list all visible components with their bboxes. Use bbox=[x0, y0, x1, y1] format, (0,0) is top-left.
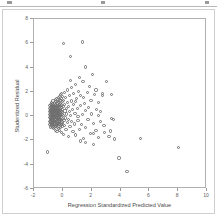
data-point bbox=[94, 88, 97, 91]
x-tick-label: 4 bbox=[118, 192, 121, 198]
data-point bbox=[82, 137, 85, 140]
y-tick-label: -4 bbox=[19, 161, 28, 167]
data-point bbox=[117, 156, 120, 159]
x-tick-mark bbox=[33, 188, 34, 191]
data-point bbox=[109, 129, 112, 132]
data-point bbox=[125, 170, 128, 173]
y-tick-label: 8 bbox=[19, 15, 28, 21]
data-point bbox=[89, 99, 92, 102]
data-point bbox=[84, 126, 87, 129]
x-tick-mark bbox=[206, 188, 207, 191]
y-tick-mark bbox=[30, 188, 33, 189]
data-point bbox=[87, 106, 90, 109]
toolbar-mark-left bbox=[7, 1, 12, 4]
x-tick-mark bbox=[148, 188, 149, 191]
x-tick-label: 0 bbox=[60, 192, 63, 198]
data-point bbox=[139, 137, 142, 140]
data-point bbox=[66, 101, 69, 104]
data-point bbox=[62, 133, 65, 136]
x-tick-mark bbox=[177, 188, 178, 191]
data-point bbox=[110, 93, 113, 96]
data-point bbox=[64, 128, 67, 131]
data-point bbox=[81, 113, 84, 116]
y-tick-mark bbox=[30, 18, 33, 19]
data-point bbox=[177, 146, 180, 149]
data-point bbox=[84, 109, 87, 112]
y-tick-mark bbox=[30, 115, 33, 116]
data-point bbox=[86, 91, 89, 94]
data-point bbox=[107, 135, 110, 138]
x-tick-mark bbox=[91, 188, 92, 191]
y-axis-title: Studentized Residual bbox=[14, 56, 20, 156]
data-point bbox=[64, 96, 67, 99]
y-tick-mark bbox=[30, 139, 33, 140]
y-tick-label: -6 bbox=[19, 185, 28, 191]
data-point bbox=[80, 123, 83, 126]
data-point bbox=[46, 150, 49, 153]
data-point bbox=[105, 80, 108, 83]
data-point bbox=[68, 125, 71, 128]
y-tick-mark bbox=[30, 67, 33, 68]
data-point bbox=[76, 119, 79, 122]
data-point bbox=[95, 108, 98, 111]
x-tick-label: 8 bbox=[176, 192, 179, 198]
data-point bbox=[74, 83, 77, 86]
y-tick-mark bbox=[30, 91, 33, 92]
data-point bbox=[72, 103, 75, 106]
data-point bbox=[66, 121, 69, 124]
data-point bbox=[99, 110, 102, 113]
data-point bbox=[86, 118, 89, 121]
data-point bbox=[102, 124, 105, 127]
data-point bbox=[69, 79, 72, 82]
plot-frame bbox=[33, 18, 206, 188]
data-point bbox=[68, 94, 71, 97]
data-point bbox=[92, 122, 95, 125]
data-point bbox=[97, 136, 100, 139]
y-tick-mark bbox=[30, 164, 33, 165]
data-point bbox=[88, 85, 91, 88]
data-point bbox=[74, 133, 77, 136]
x-tick-label: 6 bbox=[147, 192, 150, 198]
data-point bbox=[76, 115, 79, 118]
y-tick-mark bbox=[30, 42, 33, 43]
data-point bbox=[99, 120, 102, 123]
y-tick-label: 4 bbox=[19, 64, 28, 70]
chart-document-panel: -20246810 -6-4-202468 Regression Standar… bbox=[2, 9, 215, 214]
x-tick-mark bbox=[120, 188, 121, 191]
data-point bbox=[81, 40, 84, 43]
x-tick-label: -2 bbox=[31, 192, 35, 198]
data-point bbox=[82, 96, 85, 99]
data-point bbox=[78, 76, 81, 79]
data-point bbox=[94, 129, 97, 132]
y-tick-label: 0 bbox=[19, 112, 28, 118]
data-point bbox=[103, 131, 106, 134]
data-point bbox=[92, 132, 95, 135]
data-point bbox=[79, 104, 82, 107]
y-tick-label: -2 bbox=[19, 136, 28, 142]
data-point bbox=[69, 55, 72, 58]
x-tick-label: 10 bbox=[203, 192, 209, 198]
data-point bbox=[92, 143, 95, 146]
data-point bbox=[73, 122, 76, 125]
data-point bbox=[70, 86, 73, 89]
data-point bbox=[90, 112, 93, 115]
data-point bbox=[62, 42, 65, 45]
x-tick-label: 2 bbox=[89, 192, 92, 198]
data-point bbox=[79, 139, 82, 142]
data-point bbox=[67, 105, 70, 108]
data-point bbox=[63, 124, 66, 127]
y-tick-label: 2 bbox=[19, 88, 28, 94]
toolbar-mark-center bbox=[101, 1, 105, 4]
data-point bbox=[83, 102, 86, 105]
data-point bbox=[97, 101, 100, 104]
data-point bbox=[78, 128, 81, 131]
data-point bbox=[93, 93, 96, 96]
data-point bbox=[84, 141, 87, 144]
data-point bbox=[66, 88, 69, 91]
chart-window: -20246810 -6-4-202468 Regression Standar… bbox=[0, 0, 217, 216]
data-point bbox=[74, 100, 77, 103]
data-points-layer bbox=[34, 19, 205, 187]
data-point bbox=[71, 108, 74, 111]
data-point bbox=[69, 114, 72, 117]
data-point bbox=[81, 80, 84, 83]
